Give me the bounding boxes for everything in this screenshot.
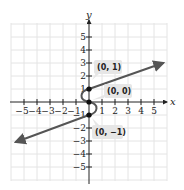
- x-tick-label: −2: [54, 106, 67, 116]
- y-tick-label: 2: [80, 71, 86, 81]
- y-tick-label: −3: [73, 136, 87, 146]
- y-axis-label: y: [85, 9, 92, 20]
- point-0-0: [86, 99, 91, 104]
- y-tick-label: −2: [73, 123, 86, 133]
- label-point-0-neg1: (0, −1): [95, 128, 126, 137]
- x-tick-label: 2: [112, 106, 118, 116]
- x-tick-label: 1: [99, 106, 105, 116]
- x-tick-label: 4: [138, 106, 144, 116]
- x-tick-label: 3: [125, 106, 131, 116]
- x-tick-label: 5: [151, 106, 157, 116]
- point-callouts: (0, 1) (0, 0) (0, −1): [92, 60, 132, 139]
- point-0-1: [86, 86, 91, 91]
- x-tick-label: −3: [41, 106, 55, 116]
- coordinate-graph: y x −5 −4 −3 −2 −1 1 2 3 4 5 5 4 3 2 1 −…: [0, 0, 184, 190]
- y-tick-label: −4: [73, 149, 87, 159]
- y-tick-label: 3: [80, 58, 86, 68]
- points: [86, 86, 91, 117]
- x-tick-label: −5: [15, 106, 29, 116]
- x-axis-label: x: [170, 96, 176, 107]
- label-point-0-0: (0, 0): [107, 87, 131, 96]
- x-tick-label: −4: [28, 106, 42, 116]
- y-tick-label: 5: [80, 32, 86, 42]
- y-tick-label: −5: [73, 162, 87, 172]
- label-point-0-1: (0, 1): [97, 63, 121, 72]
- point-0-neg1: [86, 112, 91, 117]
- y-tick-label: 4: [80, 45, 86, 55]
